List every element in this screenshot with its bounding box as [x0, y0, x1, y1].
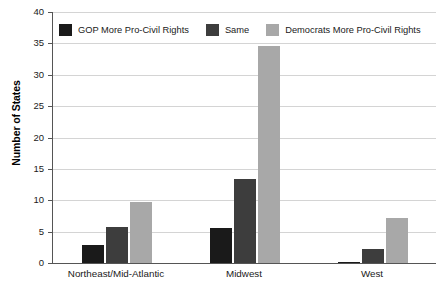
legend-label: Democrats More Pro-Civil Rights [285, 25, 420, 35]
bar[interactable] [386, 218, 408, 263]
bar-group [53, 12, 181, 263]
y-axis-tick-group: 0510152025303540 [0, 0, 52, 290]
x-axis-line [52, 263, 436, 264]
legend-item[interactable]: GOP More Pro-Civil Rights [59, 24, 189, 36]
legend-swatch [266, 24, 279, 36]
legend-label: GOP More Pro-Civil Rights [78, 25, 189, 35]
bar-group [309, 12, 437, 263]
bar[interactable] [106, 227, 128, 263]
x-axis-category-label: West [308, 268, 436, 279]
y-axis-tick-label: 20 [18, 133, 44, 143]
bars-layer [53, 12, 436, 263]
bar[interactable] [338, 262, 360, 264]
x-axis-category-label: Northeast/Mid-Atlantic [52, 268, 180, 279]
y-axis-tick-label: 25 [18, 101, 44, 111]
bar-chart: Number of States 0510152025303540 Northe… [0, 0, 446, 290]
legend-label: Same [225, 25, 249, 35]
bar[interactable] [210, 228, 232, 263]
x-axis-category-label: Midwest [180, 268, 308, 279]
y-axis-tick-label: 5 [18, 227, 44, 237]
y-axis-tick-label: 15 [18, 164, 44, 174]
bar[interactable] [82, 245, 104, 263]
y-axis-tick-label: 30 [18, 70, 44, 80]
chart-legend: GOP More Pro-Civil RightsSameDemocrats M… [59, 24, 421, 36]
bar[interactable] [234, 179, 256, 263]
bar[interactable] [258, 46, 280, 263]
y-axis-tick-label: 0 [18, 258, 44, 268]
legend-item[interactable]: Same [206, 24, 249, 36]
bar-group [181, 12, 309, 263]
legend-swatch [206, 24, 219, 36]
y-axis-tick-label: 35 [18, 38, 44, 48]
bar[interactable] [362, 249, 384, 263]
legend-swatch [59, 24, 72, 36]
bar[interactable] [130, 202, 152, 263]
y-axis-tick-label: 10 [18, 195, 44, 205]
legend-item[interactable]: Democrats More Pro-Civil Rights [266, 24, 420, 36]
y-axis-tick-label: 40 [18, 7, 44, 17]
